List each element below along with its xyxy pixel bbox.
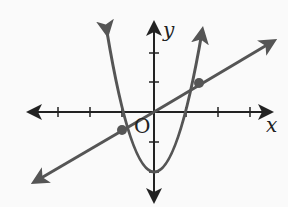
origin-label: O [134,114,150,138]
coordinate-plane [0,0,288,207]
x-axis-label: x [266,113,277,137]
graph: y x O [0,0,288,207]
intersection-point [194,78,204,88]
y-axis-label: y [163,18,174,42]
intersection-point [117,125,127,135]
line [154,42,272,112]
